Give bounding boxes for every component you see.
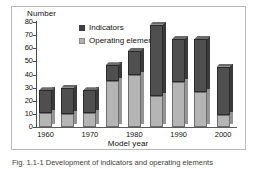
x-tick-label-1990: 1990 <box>164 130 194 139</box>
bar-segment-operating-elements <box>61 114 74 127</box>
bar-side-operating-elements <box>141 72 144 125</box>
bar-segment-indicators <box>128 51 141 75</box>
bar-segment-operating-elements <box>217 115 230 127</box>
bar-segment-operating-elements <box>194 92 207 127</box>
bar-side-indicators <box>207 36 210 89</box>
x-tick-label-1960: 1960 <box>31 130 61 139</box>
bar-segment-indicators <box>61 88 74 114</box>
bar-segment-operating-elements <box>39 113 52 127</box>
y-tick-mark-10 <box>33 114 36 115</box>
y-tick-label-50: 50 <box>11 57 33 65</box>
y-tick-label-20: 20 <box>11 97 33 105</box>
x-tick-label-1980: 1980 <box>119 130 149 139</box>
bar-segment-indicators <box>150 25 163 96</box>
y-tick-label-10: 10 <box>11 110 33 118</box>
x-axis-title: Model year <box>0 139 256 148</box>
bar-segment-indicators <box>39 90 52 112</box>
bar-segment-operating-elements <box>83 113 96 127</box>
figure-caption: Fig. 1.1-1 Development of indicators and… <box>12 158 252 170</box>
bar-side-operating-elements <box>119 78 122 124</box>
bar-segment-operating-elements <box>150 96 163 128</box>
y-tick-mark-30 <box>33 88 36 89</box>
bar-segment-indicators <box>172 39 185 82</box>
y-tick-mark-50 <box>33 61 36 62</box>
bar-side-indicators <box>163 22 166 93</box>
bar-segment-operating-elements <box>128 75 141 128</box>
y-tick-label-80: 80 <box>11 18 33 26</box>
bar-side-operating-elements <box>74 111 77 124</box>
y-tick-mark-60 <box>33 48 36 49</box>
bar-side-operating-elements <box>207 89 210 124</box>
bar-side-operating-elements <box>163 93 166 125</box>
bar-segment-indicators <box>194 39 207 92</box>
y-tick-mark-70 <box>33 35 36 36</box>
y-tick-mark-80 <box>33 22 36 23</box>
y-tick-mark-40 <box>33 75 36 76</box>
y-tick-labels: 01020304050607080 <box>8 0 33 140</box>
bar-side-operating-elements <box>52 110 55 124</box>
bar-side-indicators <box>141 48 144 72</box>
bar-segment-indicators <box>83 90 96 112</box>
bar-segment-operating-elements <box>106 81 119 127</box>
x-tick-label-1970: 1970 <box>75 130 105 139</box>
y-tick-mark-0 <box>33 127 36 128</box>
bar-side-indicators <box>52 87 55 109</box>
y-tick-label-40: 40 <box>11 71 33 79</box>
bar-side-operating-elements <box>185 79 188 124</box>
bar-segment-indicators <box>217 67 230 116</box>
y-tick-label-60: 60 <box>11 44 33 52</box>
y-tick-mark-20 <box>33 101 36 102</box>
bar-side-indicators <box>185 36 188 79</box>
bar-side-operating-elements <box>230 112 233 124</box>
y-tick-label-30: 30 <box>11 84 33 92</box>
bar-segment-indicators <box>106 65 119 81</box>
bar-side-indicators <box>96 87 99 109</box>
x-axis-line <box>37 127 237 128</box>
x-tick-label-2000: 2000 <box>208 130 238 139</box>
y-tick-label-70: 70 <box>11 31 33 39</box>
bar-side-indicators <box>74 85 77 111</box>
figure: Number 01020304050607080 Indicators Oper… <box>0 0 256 170</box>
bar-side-operating-elements <box>96 110 99 124</box>
plot-area <box>37 22 237 127</box>
bar-side-indicators <box>230 64 233 113</box>
bar-segment-operating-elements <box>172 82 185 127</box>
